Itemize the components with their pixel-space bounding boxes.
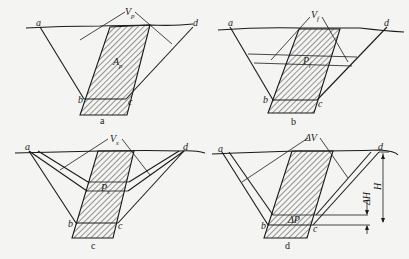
- point-c: c: [128, 96, 133, 107]
- caption-c: c: [91, 240, 96, 251]
- panel-d: a d b c ΔV ΔP ΔH H d: [212, 132, 398, 251]
- arrow-down-icon: [381, 218, 385, 223]
- point-a: a: [36, 17, 41, 28]
- ore-body: [80, 25, 150, 115]
- point-a: a: [218, 143, 223, 154]
- point-d: d: [384, 17, 390, 28]
- point-c: c: [118, 220, 123, 231]
- point-b: b: [263, 94, 268, 105]
- label-vp: Vp: [125, 6, 135, 20]
- point-b: b: [261, 220, 266, 231]
- pit-wall-left-outer: [222, 152, 268, 225]
- pit-wall-left-inner: [229, 152, 273, 215]
- label-delta-p: ΔP: [287, 214, 300, 225]
- slope-upper-left: [38, 151, 88, 182]
- panel-a: a d b c Vp Ap a: [26, 6, 199, 126]
- caption-a: a: [100, 115, 105, 126]
- point-a: a: [25, 141, 30, 152]
- point-c: c: [318, 98, 323, 109]
- label-vf: Vf: [311, 9, 320, 23]
- pit-wall-left: [40, 27, 84, 99]
- label-delta-v: ΔV: [304, 132, 319, 143]
- arrow-down-icon: [365, 210, 369, 215]
- label-delta-h: ΔH: [361, 191, 372, 206]
- label-h: H: [372, 182, 383, 191]
- caption-d: d: [285, 240, 290, 251]
- label-vs: Vs: [110, 133, 119, 147]
- slope-lower-left: [29, 151, 87, 191]
- arrow-up-icon: [381, 154, 385, 159]
- ore-body: [72, 151, 134, 238]
- point-b: b: [68, 218, 73, 229]
- point-c: c: [313, 223, 318, 234]
- pit-wall-left: [29, 151, 76, 223]
- caption-b: b: [291, 116, 296, 127]
- diagram-canvas: a d b c Vp Ap a a d b c Vf Pf b: [0, 0, 409, 259]
- slope-upper-right: [129, 151, 179, 182]
- point-b: b: [78, 94, 83, 105]
- arrow-up-icon: [365, 225, 369, 230]
- point-d: d: [193, 17, 199, 28]
- panel-b: a d b c Vf Pf b: [218, 9, 404, 127]
- point-a: a: [228, 17, 233, 28]
- panel-c: a d b c Vs Ps c: [15, 133, 205, 251]
